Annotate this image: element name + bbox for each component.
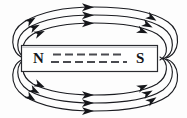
magnetic-field-diagram: N S — [0, 0, 187, 118]
arrowheads-upper-left — [24, 14, 46, 38]
south-pole-label: S — [136, 51, 144, 66]
north-pole-label: N — [33, 51, 44, 66]
field-lines-svg — [0, 0, 187, 118]
arrowheads-lower-left — [24, 79, 46, 104]
